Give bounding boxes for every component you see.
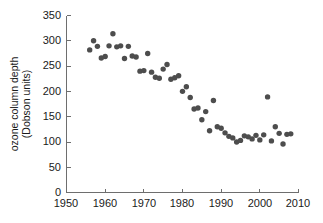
data-point bbox=[133, 54, 138, 59]
data-point bbox=[211, 98, 216, 103]
x-axis-tick-labels: 1950 1960 1970 1980 1990 2000 2010 bbox=[54, 197, 310, 209]
y-tick-label-200: 200 bbox=[43, 85, 61, 97]
data-point bbox=[118, 43, 123, 48]
data-point bbox=[141, 68, 146, 73]
data-point bbox=[269, 138, 274, 143]
data-point bbox=[184, 84, 189, 89]
y-tick-label-300: 300 bbox=[43, 34, 61, 46]
data-point bbox=[288, 131, 293, 136]
data-point bbox=[207, 128, 212, 133]
data-point bbox=[95, 44, 100, 49]
data-point bbox=[110, 31, 115, 36]
data-point bbox=[102, 54, 107, 59]
data-point bbox=[253, 133, 258, 138]
data-point bbox=[87, 47, 92, 52]
y-axis-tick-labels: 350 300 250 200 150 100 50 0 bbox=[43, 9, 61, 198]
x-tick-label-1960: 1960 bbox=[93, 197, 117, 209]
y-tick-label-100: 100 bbox=[43, 135, 61, 147]
x-tick-label-2000: 2000 bbox=[248, 197, 272, 209]
scatter-plot-svg: 350 300 250 200 150 100 50 0 1950 1960 1… bbox=[0, 0, 323, 223]
y-tick-label-50: 50 bbox=[49, 161, 61, 173]
x-tick-label-2010: 2010 bbox=[286, 197, 310, 209]
x-tick-label-1980: 1980 bbox=[170, 197, 194, 209]
axis-tick-marks bbox=[67, 16, 299, 193]
data-point bbox=[160, 66, 165, 71]
data-point bbox=[276, 131, 281, 136]
x-tick-label-1950: 1950 bbox=[54, 197, 78, 209]
data-point bbox=[180, 89, 185, 94]
x-tick-label-1990: 1990 bbox=[209, 197, 233, 209]
data-point bbox=[145, 51, 150, 56]
data-point bbox=[126, 44, 131, 49]
y-tick-label-350: 350 bbox=[43, 9, 61, 21]
data-point bbox=[195, 105, 200, 110]
x-tick-label-1970: 1970 bbox=[132, 197, 156, 209]
data-point bbox=[261, 132, 266, 137]
y-axis-title: ozone column depth (Dobson units) bbox=[8, 57, 32, 152]
data-point bbox=[122, 56, 127, 61]
y-tick-label-150: 150 bbox=[43, 110, 61, 122]
data-point bbox=[188, 95, 193, 100]
y-tick-label-250: 250 bbox=[43, 59, 61, 71]
data-point bbox=[164, 62, 169, 67]
data-point bbox=[273, 124, 278, 129]
data-point bbox=[230, 135, 235, 140]
axis-spines bbox=[67, 16, 299, 193]
data-point bbox=[257, 137, 262, 142]
data-point bbox=[157, 76, 162, 81]
data-point bbox=[149, 69, 154, 74]
data-point bbox=[218, 126, 223, 131]
y-axis-title-line2: (Dobson units) bbox=[20, 70, 32, 138]
data-point bbox=[238, 138, 243, 143]
y-axis-title-line1: ozone column depth bbox=[8, 57, 20, 152]
data-point bbox=[91, 38, 96, 43]
data-point bbox=[265, 94, 270, 99]
ozone-scatter-figure: 350 300 250 200 150 100 50 0 1950 1960 1… bbox=[0, 0, 323, 223]
data-point bbox=[203, 109, 208, 114]
data-point bbox=[176, 73, 181, 78]
data-point bbox=[106, 43, 111, 48]
data-point bbox=[280, 141, 285, 146]
scatter-points-layer bbox=[87, 31, 293, 147]
data-point bbox=[199, 117, 204, 122]
